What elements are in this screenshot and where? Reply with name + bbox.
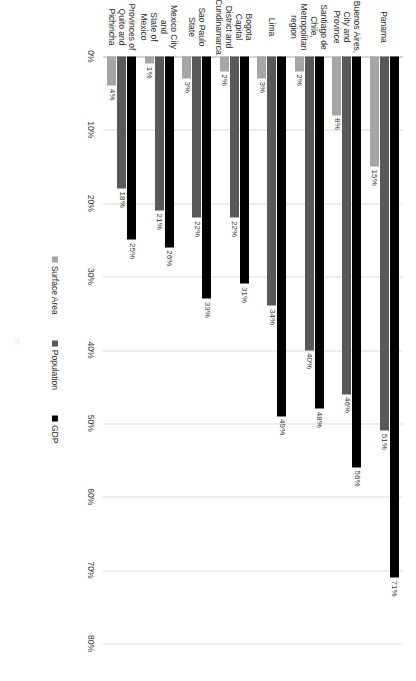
bar-value-label: 4% <box>107 88 116 100</box>
legend-label: GDP <box>50 424 60 442</box>
bar-row: 4% <box>107 56 116 643</box>
bar-value-label: 31% <box>240 286 249 302</box>
bar-value-label: 3% <box>257 81 266 93</box>
category-label-line: State <box>187 17 197 37</box>
bar <box>230 56 239 217</box>
value-axis-tick-labels: 0%10%20%30%40%50%60%70%80% <box>66 56 100 643</box>
bar-value-label: 51% <box>380 433 389 449</box>
category-label-line: Buenos Aires, <box>352 0 362 52</box>
bar-value-label: 56% <box>352 470 361 486</box>
legend-swatch-icon <box>52 256 58 262</box>
bar-group: 56%46%8% <box>330 56 364 643</box>
category-label-line: Bogota Capital <box>234 0 254 53</box>
bar-value-label: 22% <box>230 220 239 236</box>
bar-value-label: 48% <box>315 411 324 427</box>
bar-row: 25% <box>127 56 136 643</box>
bar-value-label: 2% <box>295 74 304 86</box>
category-label: Buenos Aires,City andProvince <box>330 0 364 56</box>
category-label-line: Panama <box>379 11 389 43</box>
bar-row: 3% <box>257 56 266 643</box>
bar-value-label: 46% <box>342 397 351 413</box>
bar-value-label: 49% <box>277 419 286 435</box>
bar-group: 33%22%3% <box>180 56 214 643</box>
bar-row: 21% <box>155 56 164 643</box>
bar-row: 22% <box>230 56 239 643</box>
bar-row: 40% <box>305 56 314 643</box>
bar <box>315 56 324 408</box>
bar <box>165 56 174 247</box>
bar-row: 71% <box>390 56 399 643</box>
legend-swatch-icon <box>52 415 58 421</box>
value-axis-tick: 70% <box>86 561 96 578</box>
bar-row: 26% <box>165 56 174 643</box>
bar <box>267 56 276 305</box>
bar-value-label: 21% <box>155 213 164 229</box>
plot-area: 71%51%15%56%46%8%48%40%2%49%34%3%31%22%2… <box>103 56 403 643</box>
bar-value-label: 1% <box>145 66 154 78</box>
legend-label: Population <box>50 349 60 389</box>
bar-row: 3% <box>182 56 191 643</box>
bar <box>342 56 351 394</box>
bar-value-label: 2% <box>220 74 229 86</box>
bar <box>127 56 136 239</box>
bar-row: 48% <box>315 56 324 643</box>
bar-row: 15% <box>370 56 379 643</box>
bar <box>117 56 126 188</box>
bar <box>202 56 211 298</box>
bar-value-label: 40% <box>305 353 314 369</box>
bar-value-label: 3% <box>182 81 191 93</box>
legend-item[interactable]: GDP <box>50 415 60 442</box>
category-label-line: Province <box>332 10 342 43</box>
value-axis-tick: 10% <box>86 121 96 138</box>
bar-value-label: 25% <box>127 242 136 258</box>
category-label-line: region <box>289 15 299 39</box>
bar <box>390 56 399 577</box>
category-label-line: Chile, <box>309 16 319 38</box>
bar-chart: PanamaBuenos Aires,City andProvinceSanti… <box>0 0 416 681</box>
legend-item[interactable]: Surface Area <box>50 256 60 314</box>
bar-value-label: 22% <box>192 220 201 236</box>
category-label: Panama <box>367 0 401 56</box>
category-label-line: Lima <box>267 17 277 35</box>
chart-page: PanamaBuenos Aires,City andProvinceSanti… <box>0 0 416 681</box>
bar-row: 31% <box>240 56 249 643</box>
bar-row: 49% <box>277 56 286 643</box>
legend-swatch-icon <box>52 340 58 346</box>
bar-group: 25%18%4% <box>105 56 139 643</box>
category-label-line: Sao Paulo <box>197 7 207 46</box>
bar-value-label: 15% <box>370 169 379 185</box>
bar <box>257 56 266 78</box>
category-axis-labels: PanamaBuenos Aires,City andProvinceSanti… <box>103 0 403 56</box>
bar <box>295 56 304 71</box>
bar-row: 46% <box>342 56 351 643</box>
value-axis-tick: 50% <box>86 414 96 431</box>
bar-value-label: 8% <box>332 118 341 130</box>
category-label-line: Mexico City and <box>159 0 179 53</box>
category-label-line: Santiago de <box>319 4 329 49</box>
category-label: Provinces ofQuito andPichincha <box>105 0 139 56</box>
bar-value-label: 26% <box>165 250 174 266</box>
category-label: Sao PauloState <box>180 0 214 56</box>
bar <box>352 56 361 467</box>
value-axis-tick: 80% <box>86 634 96 651</box>
bar <box>220 56 229 71</box>
bar-row: 22% <box>192 56 201 643</box>
category-label: Lima <box>255 0 289 56</box>
legend-label: Surface Area <box>50 265 60 314</box>
category-label-line: Cundinamarca <box>214 0 224 54</box>
bar <box>305 56 314 350</box>
bar-row: 1% <box>145 56 154 643</box>
bar <box>332 56 341 115</box>
chart-legend: Surface AreaPopulationGDP <box>50 56 60 643</box>
bar-row: 8% <box>332 56 341 643</box>
bar <box>182 56 191 78</box>
category-label-line: Metropolitan <box>299 3 309 50</box>
bar-row: 56% <box>352 56 361 643</box>
category-label-line: State of Mexico <box>139 0 159 53</box>
bar-row: 34% <box>267 56 276 643</box>
bar <box>370 56 379 166</box>
bar-group: 71%51%15% <box>367 56 401 643</box>
legend-item[interactable]: Population <box>50 340 60 389</box>
category-label: Mexico City andState of Mexico <box>142 0 176 56</box>
bar <box>107 56 116 85</box>
